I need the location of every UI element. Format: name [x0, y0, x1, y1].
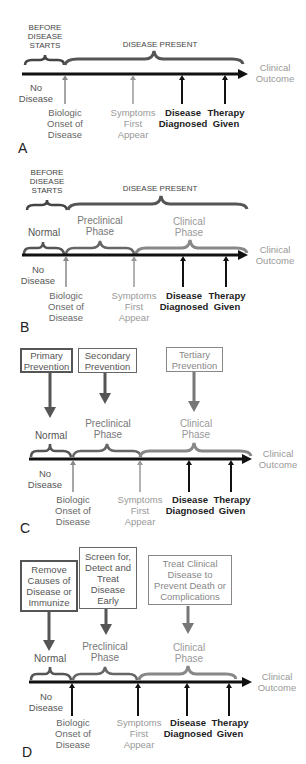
phase-preclinical-label: Preclinical Phase: [80, 418, 136, 440]
brace-clinical: [139, 666, 236, 680]
panel-letter-d: D: [22, 744, 32, 760]
therapy-arrow-icon: [228, 460, 234, 465]
tertiary-action-box: Treat Clinical Disease to Prevent Death …: [148, 555, 232, 605]
axis-arrowhead: [242, 677, 252, 687]
phase-clinical-label: Clinical Phase: [171, 418, 221, 440]
symptoms-label: Symptoms First Appear: [104, 107, 162, 140]
before-disease-label: BEFORE DISEASE STARTS: [22, 23, 68, 50]
diagnosed-arrow-icon: [186, 460, 192, 465]
brace-disease-present: [68, 196, 247, 210]
therapy-arrow-icon: [223, 256, 229, 261]
brace-clinical: [140, 443, 251, 457]
onset-label: Biologic Onset of Disease: [41, 290, 91, 323]
brace-normal: [31, 444, 71, 457]
no-disease-label: No Disease: [16, 264, 60, 286]
phase-clinical-label: Clinical Phase: [164, 216, 214, 238]
primary-action-box: Remove Causes of Disease or Immunize: [20, 560, 78, 612]
secondary-arrow-icon: [99, 393, 111, 404]
brace-before: [27, 200, 67, 210]
panel-letter-a: A: [18, 140, 27, 156]
therapy-label: Therapy Given: [206, 290, 248, 312]
diagnosed-arrow-icon: [180, 256, 186, 261]
no-disease-label: No Disease: [14, 82, 58, 104]
diagnosed-label: Disease Diagnosed: [162, 494, 218, 516]
panel-c: Primary Prevention Secondary Prevention …: [0, 345, 306, 535]
onset-arrow-icon: [63, 256, 69, 261]
phase-normal-label: Normal: [29, 430, 73, 441]
diagnosed-arrow-icon: [184, 683, 190, 688]
symptoms-arrow-icon: [130, 75, 136, 80]
onset-label: Biologic Onset of Disease: [48, 494, 98, 527]
disease-present-label: DISEASE PRESENT: [110, 184, 210, 193]
no-disease-label: No Disease: [23, 468, 67, 490]
brace-preclinical: [66, 241, 134, 254]
diagnosed-arrow-icon: [179, 75, 185, 80]
phase-normal-label: Normal: [28, 653, 72, 664]
secondary-action-box: Screen for, Detect and Treat Disease Ear…: [79, 547, 137, 609]
no-disease-label: No Disease: [24, 691, 68, 713]
brace-disease-present: [65, 51, 243, 65]
symptoms-label: Symptoms First Appear: [111, 494, 169, 527]
phase-preclinical-label: Preclinical Phase: [72, 215, 128, 237]
panel-a: BEFORE DISEASE STARTS DISEASE PRESENT Cl…: [0, 0, 306, 160]
axis-arrowhead: [238, 69, 248, 79]
panel-letter-b: B: [20, 319, 29, 335]
tertiary-arrow-icon: [188, 401, 200, 412]
onset-label: Biologic Onset of Disease: [40, 107, 90, 140]
tertiary-arrow-icon: [182, 623, 194, 634]
symptoms-arrow-icon: [131, 256, 137, 261]
clinical-outcome-label: Clinical Outcome: [252, 671, 302, 693]
onset-arrow-icon: [70, 460, 76, 465]
brace-normal: [24, 242, 64, 254]
therapy-label: Therapy Given: [209, 717, 251, 739]
phase-normal-label: Normal: [22, 227, 66, 238]
tertiary-prevention-box: Tertiary Prevention: [166, 347, 223, 372]
before-disease-label: BEFORE DISEASE STARTS: [24, 168, 70, 195]
onset-label: Biologic Onset of Disease: [48, 717, 98, 750]
therapy-arrow-icon: [222, 75, 228, 80]
diagnosed-label: Disease Diagnosed: [155, 107, 211, 129]
brace-clinical: [136, 240, 247, 254]
phase-preclinical-label: Preclinical Phase: [77, 641, 133, 663]
symptoms-arrow-icon: [135, 683, 141, 688]
primary-arrow-icon: [43, 640, 55, 651]
diagnosed-label: Disease Diagnosed: [160, 717, 216, 739]
clinical-outcome-label: Clinical Outcome: [250, 62, 300, 84]
clinical-outcome-label: Clinical Outcome: [253, 448, 303, 470]
primary-prevention-box: Primary Prevention: [20, 348, 73, 373]
panel-d: Remove Causes of Disease or Immunize Scr…: [0, 540, 306, 764]
onset-arrow-icon: [69, 683, 75, 688]
phase-clinical-label: Clinical Phase: [164, 642, 214, 664]
secondary-arrow-icon: [100, 624, 112, 635]
secondary-prevention-box: Secondary Prevention: [78, 348, 137, 373]
clinical-outcome-label: Clinical Outcome: [250, 244, 300, 266]
therapy-label: Therapy Given: [211, 494, 253, 516]
brace-preclinical: [73, 667, 137, 680]
disease-present-label: DISEASE PRESENT: [110, 40, 210, 49]
brace-preclinical: [73, 444, 141, 457]
panel-b: BEFORE DISEASE STARTS DISEASE PRESENT No…: [0, 165, 306, 335]
brace-before: [25, 55, 64, 65]
symptoms-label: Symptoms First Appear: [105, 290, 163, 323]
diagnosed-label: Disease Diagnosed: [156, 290, 212, 312]
primary-arrow-icon: [44, 407, 56, 418]
panel-letter-c: C: [20, 520, 30, 536]
brace-normal: [31, 667, 71, 680]
symptoms-arrow-icon: [137, 460, 143, 465]
therapy-label: Therapy Given: [205, 107, 247, 129]
onset-arrow-icon: [62, 75, 68, 80]
therapy-arrow-icon: [226, 683, 232, 688]
